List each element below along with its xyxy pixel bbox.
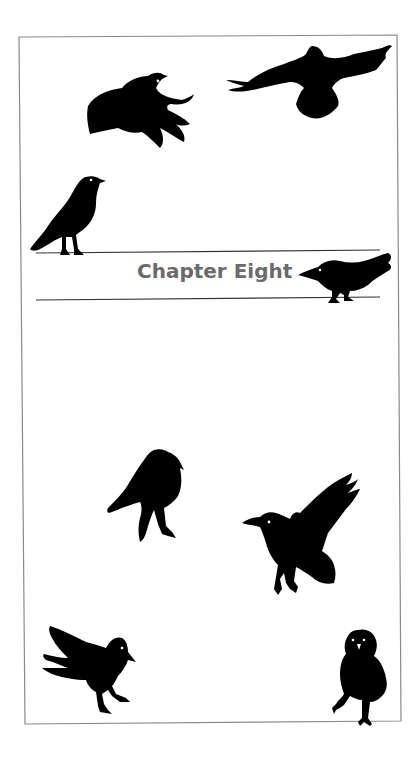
- crow-standing-icon: [106, 448, 186, 544]
- crow-stepping-icon: [330, 628, 390, 728]
- crow-crouching-icon: [298, 251, 394, 303]
- chapter-page: Chapter Eight: [0, 0, 420, 764]
- crow-walking-icon: [42, 624, 136, 714]
- chapter-title: Chapter Eight: [137, 259, 283, 283]
- crow-soaring-icon: [226, 44, 396, 122]
- crow-flying-icon: [84, 70, 196, 152]
- crow-landing-icon: [242, 473, 362, 597]
- crow-perched-icon: [30, 175, 110, 257]
